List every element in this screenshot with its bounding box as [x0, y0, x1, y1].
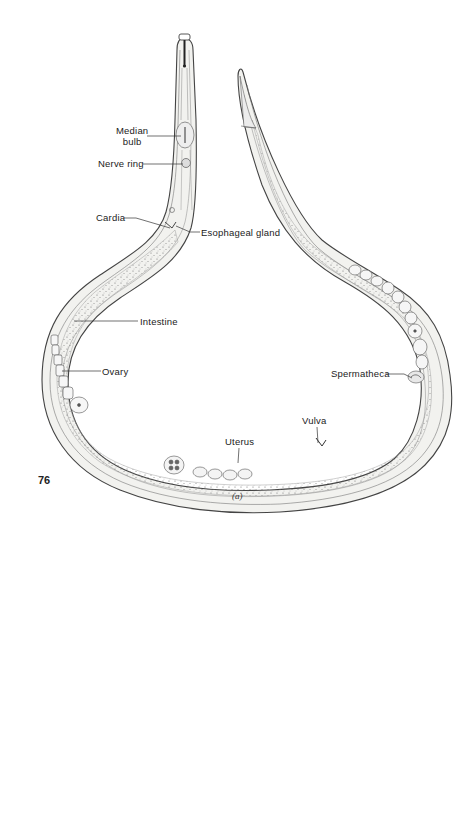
label-esophageal-gland: Esophageal gland — [201, 227, 280, 238]
label-cardia: Cardia — [96, 212, 125, 223]
label-median-bulb: Median bulb — [116, 125, 148, 147]
uterus-eggs — [164, 456, 252, 480]
figure-caption: (a) — [232, 491, 243, 501]
label-median-bulb-line1: Median — [116, 125, 148, 136]
label-vulva: Vulva — [302, 415, 326, 426]
label-uterus: Uterus — [225, 436, 254, 447]
label-intestine: Intestine — [140, 316, 178, 327]
nematode-illustration — [0, 0, 473, 833]
label-nerve-ring: Nerve ring — [98, 158, 144, 169]
label-median-bulb-line2: bulb — [116, 136, 148, 147]
label-spermatheca: Spermatheca — [331, 368, 390, 379]
label-ovary: Ovary — [102, 366, 128, 377]
page-number: 76 — [38, 474, 50, 486]
